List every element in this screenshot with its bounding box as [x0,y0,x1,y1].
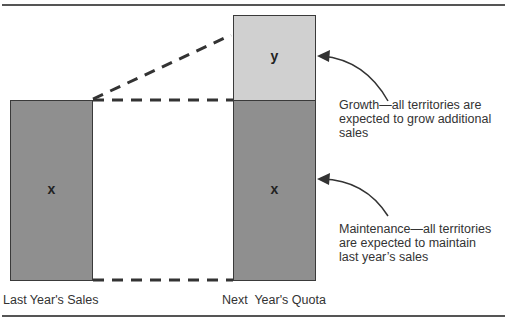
growth-line-1: Growth—all territories are [339,98,509,112]
growth-arrow-icon [322,56,388,101]
bottom-rule [2,315,505,317]
growth-line-3: sales [339,126,509,140]
connector-overlay [0,0,509,318]
growth-annotation: Growth—all territories are expected to g… [339,98,509,140]
maintenance-line-1: Maintenance—all territories [339,222,509,236]
maintenance-annotation: Maintenance—all territories are expected… [339,222,509,264]
maintenance-arrowhead-icon [317,173,330,185]
maintenance-line-3: last year’s sales [339,250,509,264]
last-year-sales-label: Last Year's Sales [3,293,99,307]
next-year-quota-label: Next Year's Quota [222,293,326,307]
maintenance-line-2: are expected to maintain [339,236,509,250]
diagonal-dashed-line [93,35,231,99]
maintenance-arrow-icon [322,179,388,216]
growth-line-2: expected to grow additional [339,112,509,126]
growth-arrowhead-icon [317,50,330,62]
